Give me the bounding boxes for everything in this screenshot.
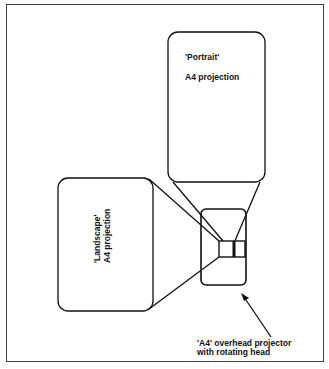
portrait-beam-left (173, 182, 223, 241)
projection-diagram (0, 0, 329, 369)
landscape-beam-top (149, 179, 219, 241)
landscape-beam-bottom (149, 257, 219, 309)
projector-head (219, 241, 245, 257)
landscape-subtitle: A4 projection (103, 209, 113, 263)
portrait-beam-right (234, 182, 260, 243)
projector-pointer-arrow (244, 297, 271, 337)
arrow-head-icon (241, 293, 249, 301)
projector-caption-line2: with rotating head (197, 348, 291, 357)
projector-caption: 'A4' overhead projector with rotating he… (197, 339, 291, 357)
projector-body (201, 209, 246, 285)
portrait-subtitle: A4 projection (185, 73, 239, 83)
landscape-label: 'Landscape' A4 projection (93, 209, 113, 263)
portrait-title: 'Portrait' (185, 53, 219, 63)
